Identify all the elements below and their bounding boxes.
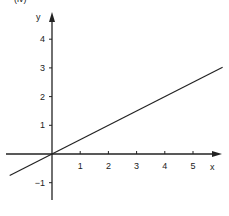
y-axis-arrow-icon — [49, 12, 55, 22]
y-tick-label: 4 — [40, 34, 45, 44]
x-tick-label: 5 — [190, 161, 195, 171]
line-chart: (iv) 12345−11234 x y — [0, 0, 229, 216]
y-axis-label: y — [36, 12, 41, 22]
axes — [6, 12, 222, 200]
y-tick-label: 1 — [40, 120, 45, 130]
x-tick-label: 4 — [162, 161, 167, 171]
y-tick-label: 3 — [40, 63, 45, 73]
ticks: 12345−11234 — [35, 34, 196, 188]
x-tick-label: 2 — [106, 161, 111, 171]
x-tick-label: 3 — [134, 161, 139, 171]
y-tick-label: 2 — [40, 92, 45, 102]
x-axis-label: x — [210, 162, 215, 172]
x-axis-arrow-icon — [212, 151, 222, 157]
x-tick-label: 1 — [78, 161, 83, 171]
panel-label: (iv) — [14, 0, 27, 4]
y-tick-label: −1 — [35, 178, 45, 188]
